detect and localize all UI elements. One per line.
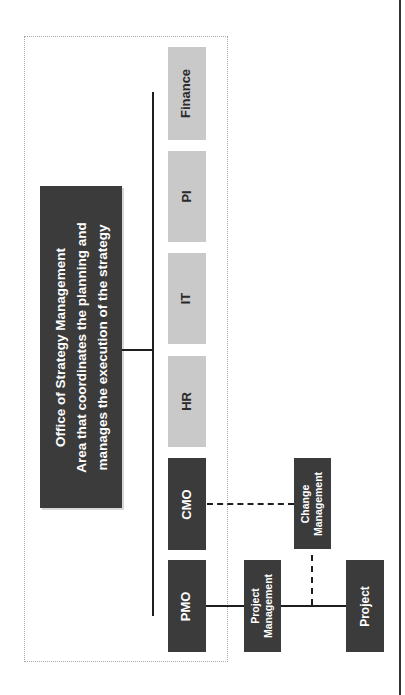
project-management-box: Project Management	[244, 560, 281, 652]
dept-pmo-box: PMO	[168, 560, 206, 652]
change-project-dashed-line	[311, 555, 313, 605]
cmo-change-dashed-line	[207, 503, 294, 505]
dept-it-box: IT	[168, 253, 206, 344]
dept-hr-box: HR	[168, 356, 206, 447]
office-of-strategy-management-box: Office of Strategy Management Area that …	[40, 186, 122, 508]
dept-finance-box: Finance	[168, 47, 206, 140]
dept-cmo-box: CMO	[168, 458, 206, 550]
root-desc-line-2: manages the execution of the strategy	[92, 222, 113, 473]
root-desc-line-1: Area that coordinates the planning and	[71, 222, 92, 473]
dept-pi-box: PI	[168, 151, 206, 242]
page-edge-line	[399, 0, 401, 695]
root-connector	[122, 349, 153, 351]
root-label: Office of Strategy Management Area that …	[50, 222, 113, 473]
change-management-box: Change Management	[294, 458, 331, 549]
department-bus-line	[152, 92, 154, 616]
project-box: Project	[346, 560, 384, 652]
root-title: Office of Strategy Management	[50, 222, 71, 473]
